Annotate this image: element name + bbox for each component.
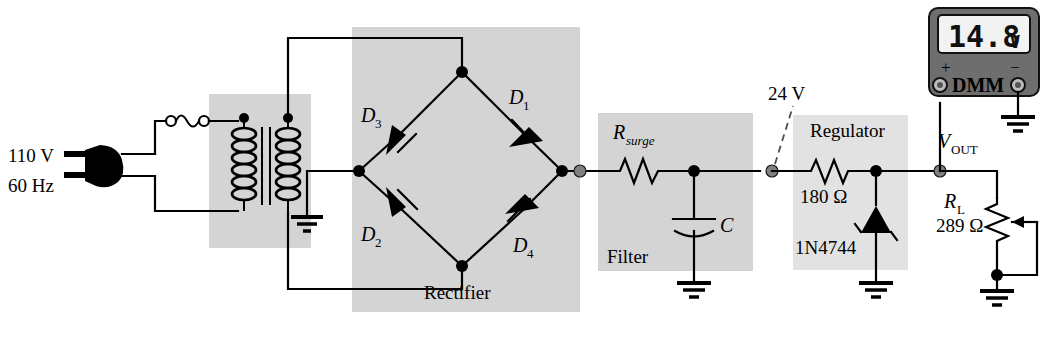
bridge-bottom-node: [456, 260, 468, 272]
line-to-fuse: [155, 121, 166, 154]
dmm-positive-terminal-label: +: [941, 58, 951, 77]
vout-subscript: OUT: [951, 142, 978, 157]
leader-line-24v: [775, 106, 793, 164]
bridge-left-ground-wire: [307, 171, 359, 216]
diode-d3-label: D: [360, 104, 376, 126]
circuit-diagram-figure: D 3 D 1 D 2 D 4 Rectifier R surge C: [0, 0, 1050, 350]
schematic-canvas: D 3 D 1 D 2 D 4 Rectifier R surge C: [0, 0, 1050, 350]
rectifier-block-label: Rectifier: [424, 282, 491, 303]
test-node-rectifier-output[interactable]: [574, 165, 586, 177]
diode-d1-subscript: 1: [523, 98, 530, 113]
diode-d4-label: D: [512, 234, 528, 256]
source-voltage-label: 110 V: [8, 145, 54, 166]
ground-symbol-regulator: [859, 283, 893, 297]
capacitor-c-label: C: [720, 214, 734, 236]
source-frequency-label: 60 Hz: [8, 175, 54, 196]
regulator-resistor-value: 180 Ω: [800, 186, 847, 207]
ground-symbol-load: [980, 291, 1014, 305]
load-resistor-symbol: [986, 198, 1008, 275]
transformer-block-shading: [209, 94, 311, 248]
diode-d2-subscript: 2: [375, 235, 382, 250]
zener-part-label: 1N4744: [795, 237, 857, 258]
primary-polarity-dot: [239, 113, 249, 123]
filter-block-label: Filter: [607, 246, 649, 267]
dmm-name-label: DMM: [952, 74, 1004, 96]
load-label: R: [943, 190, 956, 212]
rheostat-wiper-arrow: [997, 216, 1037, 275]
diode-d3-subscript: 3: [375, 116, 382, 131]
power-plug-icon: [64, 145, 123, 187]
annotation-24v: 24 V: [768, 83, 805, 104]
dmm-unit: V: [1010, 32, 1020, 52]
dmm-negative-terminal-label: −: [1010, 58, 1020, 77]
dmm-negative-jack-inner: [1015, 82, 1021, 88]
dmm-meter[interactable]: 14.8 V + − DMM: [929, 8, 1039, 96]
regulator-block-label: Regulator: [810, 120, 886, 141]
dmm-positive-jack-inner: [937, 82, 943, 88]
diode-d2-label: D: [360, 223, 376, 245]
diode-d4-subscript: 4: [527, 246, 534, 261]
ground-symbol-filter: [677, 283, 711, 297]
rsurge-subscript: surge: [626, 133, 655, 148]
bridge-top-node: [456, 66, 468, 78]
ground-symbol-dmm: [1001, 117, 1035, 131]
diode-d1-label: D: [508, 86, 524, 108]
load-value: 289 Ω: [936, 215, 983, 236]
rsurge-label: R: [612, 121, 625, 143]
